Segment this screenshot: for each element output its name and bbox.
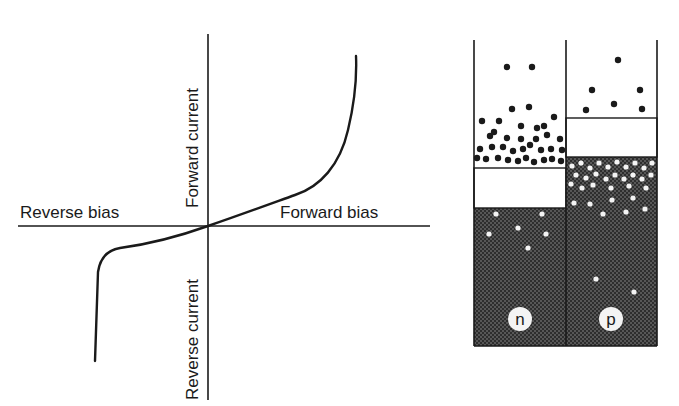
p-label: p [606,310,615,329]
n-column: n [474,64,566,346]
iv-curve-graph: Reverse bias Forward bias Forward curren… [18,34,430,400]
p-electrons [583,57,645,113]
n-bandgap [474,168,566,208]
p-column: p [566,57,657,346]
n-electrons [474,64,565,165]
diode-figure: Reverse bias Forward bias Forward curren… [0,0,679,406]
pn-band-diagram: n p [474,40,657,346]
n-label: n [515,310,524,329]
forward-bias-label: Forward bias [280,203,378,222]
forward-current-label: Forward current [183,88,202,208]
reverse-current-label: Reverse current [183,279,202,400]
p-bandgap [566,118,657,157]
reverse-bias-label: Reverse bias [20,203,119,222]
